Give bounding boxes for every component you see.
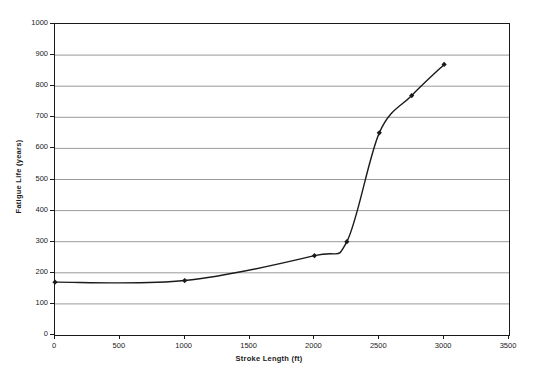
x-tick-label: 2500	[358, 341, 398, 350]
y-tick-mark	[50, 85, 54, 86]
y-tick-mark	[50, 241, 54, 242]
x-tick-mark	[443, 335, 444, 339]
x-tick-mark	[313, 335, 314, 339]
series-line	[55, 64, 444, 283]
y-axis-title: Fatigue Life (years)	[14, 107, 23, 247]
y-tick-mark	[50, 272, 54, 273]
y-tick-mark	[50, 147, 54, 148]
x-tick-label: 3000	[423, 341, 463, 350]
fatigue-life-chart: 01002003004005006007008009001000 0500100…	[0, 0, 538, 375]
data-series-line	[55, 24, 509, 335]
y-tick-mark	[50, 54, 54, 55]
y-tick-mark	[50, 179, 54, 180]
x-tick-mark	[508, 335, 509, 339]
y-tick-label: 0	[8, 329, 48, 338]
y-tick-label: 900	[8, 49, 48, 58]
data-point-marker	[312, 253, 317, 258]
x-tick-mark	[119, 335, 120, 339]
x-tick-mark	[249, 335, 250, 339]
y-tick-mark	[50, 210, 54, 211]
x-axis-title: Stroke Length (ft)	[0, 354, 538, 363]
x-tick-label: 3500	[488, 341, 528, 350]
y-tick-label: 200	[8, 267, 48, 276]
x-tick-mark	[184, 335, 185, 339]
y-tick-mark	[50, 303, 54, 304]
plot-area	[54, 23, 510, 336]
y-tick-label: 100	[8, 298, 48, 307]
y-tick-mark	[50, 23, 54, 24]
y-tick-label: 800	[8, 80, 48, 89]
x-tick-label: 0	[34, 341, 74, 350]
data-point-marker	[182, 278, 187, 283]
x-tick-label: 1500	[229, 341, 269, 350]
y-tick-label: 1000	[8, 18, 48, 27]
x-tick-label: 500	[99, 341, 139, 350]
data-point-marker	[52, 280, 57, 285]
x-tick-label: 2000	[293, 341, 333, 350]
y-tick-mark	[50, 116, 54, 117]
data-point-marker	[377, 130, 382, 135]
data-point-marker	[344, 239, 349, 244]
x-tick-mark	[54, 335, 55, 339]
x-tick-label: 1000	[164, 341, 204, 350]
x-tick-mark	[378, 335, 379, 339]
